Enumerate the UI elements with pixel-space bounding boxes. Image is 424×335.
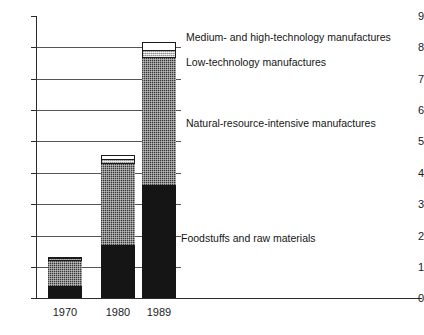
bar-1980-segment-natural-resource	[101, 164, 135, 245]
bar-1989	[142, 42, 176, 298]
y-tick-label-4: 4	[398, 168, 424, 179]
y-tick-label-5: 5	[398, 136, 424, 147]
bar-1980	[101, 155, 135, 298]
y-tick-label-6: 6	[398, 105, 424, 116]
bar-1980-segment-foodstuffs	[101, 245, 135, 298]
series-label-low-tech: Low-technology manufactures	[186, 56, 326, 68]
bar-1989-segment-foodstuffs	[142, 185, 176, 298]
y-tick-label-9: 9	[398, 11, 424, 22]
y-tick-label-3: 3	[398, 199, 424, 210]
series-label-natural-resource: Natural-resource-intensive manufactures	[186, 117, 376, 129]
y-tick-mark-9	[31, 16, 37, 17]
y-tick-label-7: 7	[398, 74, 424, 85]
y-tick-mark-0	[31, 298, 37, 299]
y-tick-label-0: 0	[398, 293, 424, 304]
bar-1970-segment-foodstuffs	[48, 286, 82, 298]
bar-1970-segment-natural-resource	[48, 261, 82, 286]
y-tick-label-8: 8	[398, 42, 424, 53]
x-axis-line	[36, 298, 422, 299]
series-label-medium-high-tech: Medium- and high-technology manufactures	[186, 31, 391, 43]
bar-1989-segment-low-tech	[142, 50, 176, 58]
x-tick-label-1980: 1980	[96, 306, 140, 318]
y-axis-line	[36, 16, 37, 299]
stacked-bar-chart: 9 8 7 6 5 4 3 2 1 0 1970 1980 1989 Mediu…	[0, 0, 424, 335]
x-tick-label-1989: 1989	[137, 306, 181, 318]
x-tick-label-1970: 1970	[43, 306, 87, 318]
bar-1970	[48, 257, 82, 298]
y-tick-label-2: 2	[398, 231, 424, 242]
y-tick-label-1: 1	[398, 262, 424, 273]
bar-1989-segment-natural-resource	[142, 58, 176, 185]
series-label-foodstuffs: Foodstuffs and raw materials	[181, 232, 316, 244]
